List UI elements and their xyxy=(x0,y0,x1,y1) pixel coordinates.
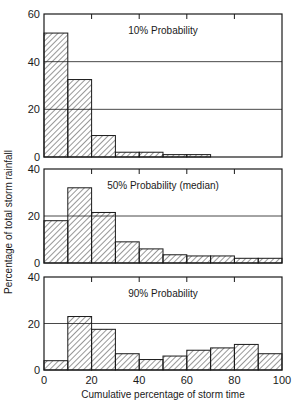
histogram-bar xyxy=(187,256,211,263)
y-tick-label: 0 xyxy=(34,151,40,163)
histogram-bar xyxy=(44,221,68,263)
x-tick-label: 100 xyxy=(273,374,291,386)
x-axis: 020406080100 xyxy=(41,374,291,386)
histogram-bar xyxy=(258,354,282,370)
x-tick-label: 0 xyxy=(41,374,47,386)
y-tick-label: 40 xyxy=(28,163,40,175)
histogram-bar xyxy=(139,152,163,157)
x-tick-label: 80 xyxy=(228,374,240,386)
histogram-bar xyxy=(68,317,92,370)
histogram-bar xyxy=(44,361,68,370)
histogram-bar xyxy=(92,136,116,157)
histogram-bar xyxy=(68,80,92,157)
y-tick-label: 40 xyxy=(28,56,40,68)
histogram-chart: 020406010% Probability0204050% Probabili… xyxy=(0,0,296,408)
y-tick-label: 0 xyxy=(34,257,40,269)
histogram-bar xyxy=(163,255,187,263)
histogram-bar xyxy=(258,258,282,263)
histogram-bar xyxy=(211,348,235,370)
histogram-bar xyxy=(115,354,139,370)
x-tick-label: 20 xyxy=(85,374,97,386)
histogram-bar xyxy=(139,360,163,370)
histogram-bar xyxy=(115,242,139,263)
panel-title: 50% Probability (median) xyxy=(107,180,219,191)
y-tick-label: 20 xyxy=(28,103,40,115)
histogram-bar xyxy=(187,350,211,370)
y-tick-label: 40 xyxy=(28,271,40,283)
histogram-bar xyxy=(234,258,258,263)
panel-title: 10% Probability xyxy=(128,25,197,36)
x-tick-label: 40 xyxy=(133,374,145,386)
panel-title: 90% Probability xyxy=(128,288,197,299)
histogram-bar xyxy=(68,188,92,263)
histogram-bar xyxy=(234,344,258,370)
panel-3: 0204090% Probability xyxy=(28,271,282,376)
y-axis-title: Percentage of total storm rainfall xyxy=(3,150,14,294)
y-tick-label: 20 xyxy=(28,318,40,330)
histogram-bar xyxy=(211,256,235,263)
histogram-bar xyxy=(44,33,68,157)
histogram-bar xyxy=(115,152,139,157)
histogram-bar xyxy=(92,329,116,370)
histogram-bar xyxy=(139,249,163,263)
panel-1: 020406010% Probability xyxy=(28,8,282,163)
y-tick-label: 0 xyxy=(34,364,40,376)
panel-2: 0204050% Probability (median) xyxy=(28,163,282,269)
y-tick-label: 20 xyxy=(28,210,40,222)
x-axis-title: Cumulative percentage of storm time xyxy=(81,389,245,400)
histogram-bar xyxy=(163,356,187,370)
y-tick-label: 60 xyxy=(28,8,40,20)
histogram-bar xyxy=(92,212,116,263)
x-tick-label: 60 xyxy=(181,374,193,386)
